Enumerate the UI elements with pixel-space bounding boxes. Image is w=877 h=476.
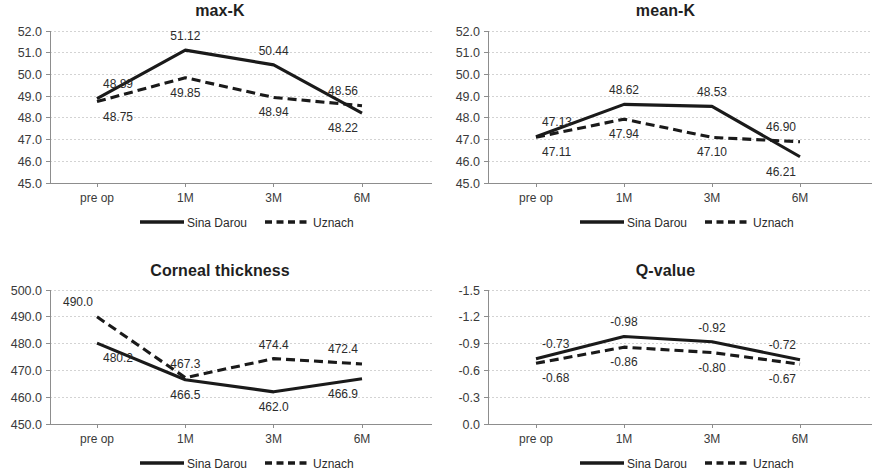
chart-panel-q-value: Q-value -1.5-1.2-0.9-0.6-0.30.0pre op1M3… [440,240,877,476]
y-axis-tick-label: -0.9 [458,337,480,351]
chart-plot-max-k: 52.051.050.049.048.047.046.045.0pre op1M… [0,0,440,240]
x-axis-category-label: 3M [704,432,721,446]
x-axis-category-label: 3M [265,432,282,446]
data-value-label: 47.11 [542,145,571,159]
y-axis-tick-label: 450.0 [11,418,42,432]
series-line-sina-darou [97,343,362,392]
x-axis-category-label: pre op [80,191,114,205]
y-axis-tick-label: 470.0 [11,364,42,378]
x-axis-category-label: pre op [80,432,114,446]
chart-panel-corneal-thickness: Corneal thickness 500.0490.0480.0470.046… [0,240,440,476]
y-axis-tick-label: -0.6 [458,364,480,378]
series-line-sina-darou [536,104,800,156]
data-value-label: 48.62 [609,83,639,97]
data-value-label: 46.90 [766,120,796,134]
legend-label-uznach: Uznach [753,457,794,471]
chart-plot-corneal-thickness: 500.0490.0480.0470.0460.0450.0pre op1M3M… [0,240,440,476]
y-axis-tick-label: 51.0 [18,46,42,60]
y-axis-tick-label: 480.0 [11,337,42,351]
y-axis-tick-label: 47.0 [18,133,42,147]
data-value-label: 49.85 [170,86,200,100]
legend-label-sina-darou: Sina Darou [187,216,247,230]
y-axis-tick-label: 50.0 [456,68,480,82]
data-value-label: 48.94 [259,105,289,119]
x-axis-category-label: 6M [792,191,809,205]
legend-label-uznach: Uznach [313,216,354,230]
y-axis-tick-label: -0.3 [458,391,480,405]
legend-label-uznach: Uznach [753,216,794,230]
data-value-label: 48.75 [103,110,133,124]
legend-label-uznach: Uznach [313,457,354,471]
y-axis-tick-label: 0.0 [463,418,480,432]
data-value-label: 466.9 [328,387,358,401]
data-value-label: 48.89 [103,77,133,91]
chart-plot-q-value: -1.5-1.2-0.9-0.6-0.30.0pre op1M3M6M-0.73… [440,240,877,476]
x-axis-category-label: 6M [354,191,371,205]
y-axis-tick-label: 500.0 [11,284,42,298]
chart-plot-mean-k: 52.051.050.049.048.047.046.045.0pre op1M… [440,0,877,240]
data-value-label: -0.72 [769,338,797,352]
data-value-label: 467.3 [170,357,200,371]
y-axis-tick-label: 51.0 [456,46,480,60]
y-axis-tick-label: 46.0 [456,155,480,169]
y-axis-tick-label: 46.0 [18,155,42,169]
data-value-label: 47.94 [609,127,639,141]
y-axis-tick-label: 45.0 [456,177,480,191]
y-axis-tick-label: 49.0 [18,90,42,104]
data-value-label: -0.67 [769,372,797,386]
y-axis-tick-label: 49.0 [456,90,480,104]
y-axis-tick-label: -1.2 [458,310,480,324]
data-value-label: -0.86 [610,355,638,369]
y-axis-tick-label: 460.0 [11,391,42,405]
y-axis-tick-label: 490.0 [11,310,42,324]
data-value-label: -0.80 [698,361,726,375]
chart-figure-grid: max-K 52.051.050.049.048.047.046.045.0pr… [0,0,877,476]
x-axis-category-label: 1M [177,191,194,205]
y-axis-tick-label: -1.5 [458,284,480,298]
data-value-label: 48.53 [697,85,727,99]
chart-panel-mean-k: mean-K 52.051.050.049.048.047.046.045.0p… [440,0,877,240]
series-line-sina-darou [536,336,800,359]
data-value-label: 466.5 [170,388,200,402]
x-axis-category-label: 6M [792,432,809,446]
legend-label-sina-darou: Sina Darou [627,216,687,230]
y-axis-tick-label: 52.0 [18,25,42,39]
data-value-label: -0.98 [610,315,638,329]
data-value-label: 47.10 [697,145,727,159]
series-line-sina-darou [97,50,362,113]
chart-panel-max-k: max-K 52.051.050.049.048.047.046.045.0pr… [0,0,440,240]
legend-label-sina-darou: Sina Darou [627,457,687,471]
data-value-label: 474.4 [259,338,289,352]
series-line-uznach [97,317,362,378]
y-axis-tick-label: 48.0 [18,111,42,125]
x-axis-category-label: pre op [519,191,553,205]
data-value-label: 48.22 [328,121,358,135]
x-axis-category-label: 1M [616,432,633,446]
x-axis-category-label: 1M [616,191,633,205]
data-value-label: 50.44 [259,44,289,58]
x-axis-category-label: pre op [519,432,553,446]
data-value-label: -0.73 [542,337,570,351]
y-axis-tick-label: 52.0 [456,25,480,39]
data-value-label: 47.13 [542,115,572,129]
data-value-label: 480.2 [103,351,133,365]
data-value-label: 46.21 [766,165,796,179]
data-value-label: 51.12 [170,29,200,43]
x-axis-category-label: 3M [704,191,721,205]
y-axis-tick-label: 45.0 [18,177,42,191]
y-axis-tick-label: 47.0 [456,133,480,147]
data-value-label: -0.92 [698,321,726,335]
x-axis-category-label: 1M [177,432,194,446]
y-axis-tick-label: 50.0 [18,68,42,82]
data-value-label: 48.56 [328,84,358,98]
y-axis-tick-label: 48.0 [456,111,480,125]
data-value-label: 462.0 [259,400,289,414]
x-axis-category-label: 6M [354,432,371,446]
x-axis-category-label: 3M [265,191,282,205]
data-value-label: 472.4 [328,342,358,356]
data-value-label: -0.68 [542,371,570,385]
legend-label-sina-darou: Sina Darou [187,457,247,471]
data-value-label: 490.0 [63,295,93,309]
